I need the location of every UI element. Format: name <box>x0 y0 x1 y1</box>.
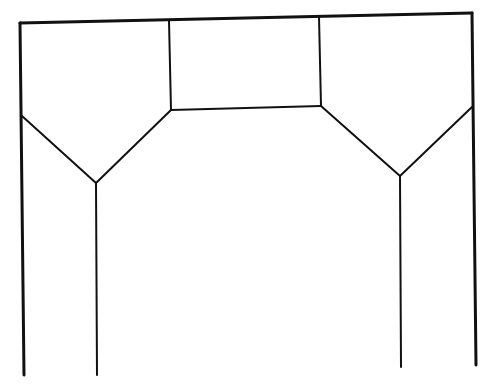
center-left-post <box>169 21 171 110</box>
right-inner-leg <box>400 176 401 367</box>
right-outer-post <box>472 13 476 365</box>
left-inner-leg <box>96 183 97 375</box>
left-outer-post <box>20 23 24 375</box>
center-right-post <box>319 17 321 106</box>
top-beam <box>20 13 472 23</box>
left-v <box>22 110 171 183</box>
frame-diagram <box>0 0 492 388</box>
diagram-svg <box>0 0 492 388</box>
center-bottom-beam <box>171 106 321 110</box>
right-v <box>321 106 472 176</box>
